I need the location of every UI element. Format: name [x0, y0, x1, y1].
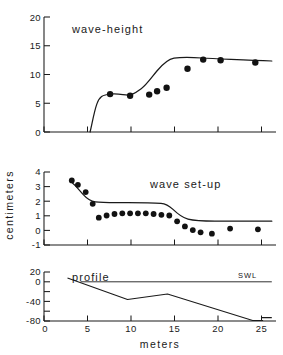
y-axis-label: centimeters [3, 170, 15, 240]
y-tick-labels-profile: 20 0 -40 -80 [26, 266, 41, 326]
y-tick-label: 2 [35, 196, 41, 207]
panel-title-wave-height: wave-height [71, 23, 143, 35]
x-tick-label: 5 [85, 323, 91, 334]
x-ticks-profile [44, 316, 262, 322]
y-tick-label: 5 [35, 98, 41, 109]
data-point [184, 66, 190, 72]
x-ticks-wave-setup [44, 240, 262, 246]
swl-label: SWL [238, 271, 257, 280]
data-point [166, 213, 172, 219]
panel-title-wave-setup: wave set-up [149, 178, 221, 190]
y-ticks-wave-setup [44, 172, 50, 245]
data-points-wave-height [107, 56, 259, 99]
data-point [174, 218, 180, 224]
data-point [190, 227, 196, 233]
x-axis-label: meters [140, 338, 181, 350]
data-point [83, 189, 89, 195]
data-point [154, 88, 160, 94]
y-tick-label: 10 [30, 69, 41, 80]
data-point [90, 201, 96, 207]
y-tick-label: 0 [35, 127, 41, 138]
data-point [252, 59, 258, 65]
y-tick-label: 0 [35, 276, 41, 287]
x-tick-labels-profile: 0 5 10 15 20 25 [42, 323, 267, 334]
x-ticks-wave-height [44, 127, 262, 133]
data-point [163, 85, 169, 91]
data-point [151, 211, 157, 217]
y-ticks-profile [44, 272, 50, 321]
data-point [104, 213, 110, 219]
x-tick-label: 15 [169, 323, 180, 334]
y-tick-labels-wave-setup: 4 3 2 1 0 -1 [32, 166, 41, 250]
data-point [127, 93, 133, 99]
y-tick-label: -1 [32, 239, 41, 250]
data-point [227, 226, 233, 232]
data-point [209, 231, 215, 237]
data-point [107, 91, 113, 97]
data-point [127, 210, 133, 216]
x-tick-label: 10 [125, 323, 136, 334]
data-point [182, 224, 188, 230]
data-point [255, 226, 261, 232]
data-point [200, 56, 206, 62]
data-point [217, 57, 223, 63]
panel-profile: profile 20 0 -40 -80 [26, 266, 276, 350]
data-point [198, 229, 204, 235]
data-point [146, 91, 152, 97]
profile-line [68, 278, 272, 321]
data-point [96, 215, 102, 221]
data-point [69, 178, 75, 184]
y-tick-label: 0 [35, 225, 41, 236]
data-point [119, 210, 125, 216]
fit-curve-wave-height [90, 57, 272, 132]
axes-wave-height: 20 15 10 5 0 [30, 12, 276, 138]
x-tick-label: 20 [212, 323, 223, 334]
y-tick-label: 3 [35, 181, 41, 192]
data-point [112, 211, 118, 217]
y-tick-label: 1 [35, 210, 41, 221]
y-tick-label: -40 [26, 296, 41, 307]
y-tick-labels-wave-height: 20 15 10 5 0 [30, 12, 41, 138]
y-ticks-wave-height [44, 17, 50, 132]
y-tick-label: -80 [26, 315, 41, 326]
data-point [75, 182, 81, 188]
y-tick-label: 20 [30, 12, 41, 23]
panel-wave-setup: wave set-up 4 3 2 1 0 -1 [32, 166, 276, 250]
y-tick-label: 4 [35, 166, 41, 177]
x-tick-label: 0 [42, 323, 48, 334]
data-point [159, 212, 165, 218]
data-point [143, 210, 149, 216]
data-point [135, 210, 141, 216]
y-tick-label: 15 [30, 40, 41, 51]
x-tick-label: 25 [256, 323, 267, 334]
panel-wave-height: wave-height 20 15 10 5 0 [30, 12, 276, 138]
figure-root: centimeters wave-height 20 15 10 5 0 [0, 0, 283, 355]
